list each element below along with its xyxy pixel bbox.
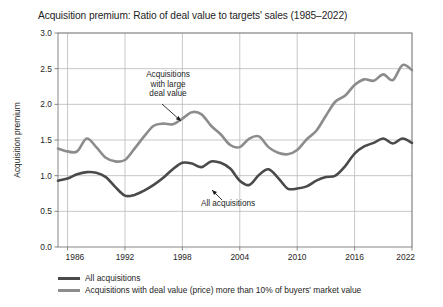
y-axis-title: Acquisition premium <box>12 102 22 177</box>
legend-label-large-deal-value: Acquisitions with deal value (price) mor… <box>85 284 361 296</box>
axis-ticks <box>55 33 413 251</box>
x-tick-label: 1986 <box>66 252 85 262</box>
x-tick-label: 1998 <box>173 252 192 262</box>
y-tick-label: 1.0 <box>40 171 52 181</box>
annotation-all-acquisitions: All acquisitions <box>201 199 255 208</box>
chart-legend: All acquisitions Acquisitions with deal … <box>58 272 361 296</box>
y-tick-label: 3.0 <box>40 28 52 38</box>
legend-swatch-large-deal-value <box>58 289 80 292</box>
axis-tick-labels: 0.00.51.01.52.02.53.01986199219982004201… <box>40 28 415 262</box>
y-tick-label: 2.5 <box>40 64 52 74</box>
chart-plot-area: 0.00.51.01.52.02.53.01986199219982004201… <box>0 0 443 307</box>
x-tick-label: 2010 <box>288 252 307 262</box>
legend-item-large-deal-value: Acquisitions with deal value (price) mor… <box>58 284 361 296</box>
y-tick-label: 1.5 <box>40 135 52 145</box>
x-tick-label: 2004 <box>230 252 249 262</box>
x-tick-label: 1992 <box>116 252 135 262</box>
legend-label-all-acquisitions: All acquisitions <box>85 272 140 284</box>
x-tick-label: 2022 <box>396 252 415 262</box>
annotation-large-deal-value: Acquisitionswith largedeal value <box>146 70 190 98</box>
series-line-large-deal-value <box>58 65 412 162</box>
y-tick-label: 2.0 <box>40 99 52 109</box>
legend-item-all-acquisitions: All acquisitions <box>58 272 361 284</box>
legend-swatch-all-acquisitions <box>58 277 80 280</box>
chart-annotations: Acquisitionswith largedeal valueAll acqu… <box>146 70 255 208</box>
y-tick-label: 0.0 <box>40 242 52 252</box>
y-tick-label: 0.5 <box>40 206 52 216</box>
x-tick-label: 2016 <box>345 252 364 262</box>
gridlines <box>58 33 412 247</box>
chart-figure: Acquisition premium: Ratio of deal value… <box>0 0 443 307</box>
data-series-group <box>58 65 412 196</box>
